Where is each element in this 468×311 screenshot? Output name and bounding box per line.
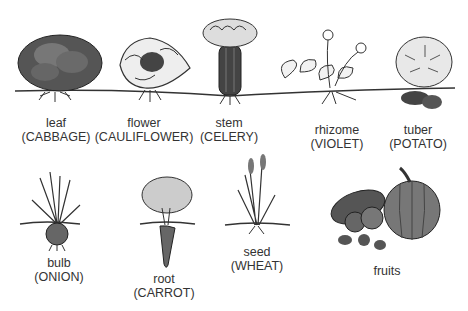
part-name: fruits <box>373 264 400 278</box>
example-name: (VIOLET) <box>311 137 364 151</box>
part-name: seed <box>231 245 284 259</box>
example-name: (ONION) <box>34 270 83 284</box>
part-name: bulb <box>34 256 83 270</box>
celery-icon <box>203 19 257 105</box>
label-flower: flower (CAULIFLOWER) <box>95 116 194 144</box>
label-fruits: fruits <box>373 264 400 278</box>
label-root: root (CARROT) <box>133 272 194 300</box>
example-name: (CAULIFLOWER) <box>95 130 194 144</box>
example-name: (WHEAT) <box>231 259 284 273</box>
wheat-icon <box>225 154 290 234</box>
part-name: stem <box>200 116 258 130</box>
potato-plant-icon <box>396 37 452 109</box>
part-name: flower <box>95 116 194 130</box>
onion-icon <box>20 172 80 251</box>
part-name: root <box>133 272 194 286</box>
example-name: (CELERY) <box>200 130 258 144</box>
part-name: rhizome <box>311 123 364 137</box>
label-stem: stem (CELERY) <box>200 116 258 144</box>
example-name: (CABBAGE) <box>22 130 91 144</box>
example-name: (CARROT) <box>133 286 194 300</box>
part-name: tuber <box>389 123 447 137</box>
label-leaf: leaf (CABBAGE) <box>22 116 91 144</box>
label-rhizome: rhizome (VIOLET) <box>311 123 364 151</box>
example-name: (POTATO) <box>389 137 447 151</box>
label-bulb: bulb (ONION) <box>34 256 83 284</box>
label-tuber: tuber (POTATO) <box>389 123 447 151</box>
label-seed: seed (WHEAT) <box>231 245 284 273</box>
part-name: leaf <box>22 116 91 130</box>
fruits-icon <box>327 168 440 250</box>
cabbage-icon <box>18 35 102 102</box>
carrot-icon <box>140 177 195 267</box>
